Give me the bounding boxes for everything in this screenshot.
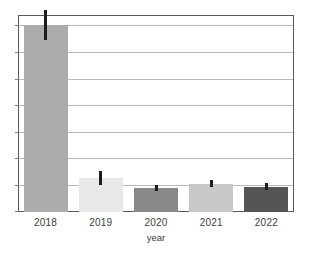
x-axis-tick-label-1: 2019: [73, 217, 128, 228]
bars-layer: [18, 15, 294, 212]
error-bar-2022: [265, 183, 268, 190]
x-axis-title: year: [0, 232, 312, 243]
bar-2020[interactable]: [134, 188, 178, 212]
error-bar-2020: [155, 185, 158, 191]
x-axis-tick-label-4: 2022: [239, 217, 294, 228]
bar-chart: 2018 2019 2020 2021 2022 year: [0, 0, 312, 255]
bar-2018[interactable]: [24, 25, 68, 212]
error-bar-2018: [44, 10, 47, 40]
x-axis-tick-label-2: 2020: [128, 217, 183, 228]
x-axis-tick-label-3: 2021: [184, 217, 239, 228]
bar-2022[interactable]: [244, 187, 288, 212]
bar-2021[interactable]: [189, 184, 233, 212]
error-bar-2021: [210, 180, 213, 187]
error-bar-2019: [99, 171, 102, 185]
x-axis-tick-label-0: 2018: [18, 217, 73, 228]
